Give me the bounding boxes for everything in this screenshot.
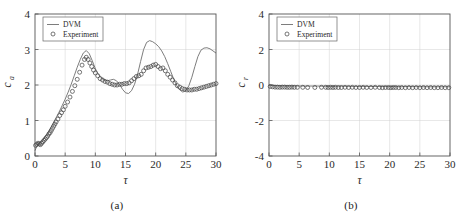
y-tick-label: 2 [25, 79, 31, 91]
x-tick-label: 20 [384, 158, 396, 170]
y-tick-label: 0 [25, 150, 31, 162]
chart-panel-b: 051015202530-4-2024τcrDVMExperiment(b) [234, 0, 468, 215]
legend-label-experiment: Experiment [63, 30, 99, 39]
y-axis-label-subscript: r [241, 77, 250, 80]
y-tick-label: 0 [259, 79, 265, 91]
y-axis-label: ca [1, 76, 16, 88]
figure-container: 05101520253001234τcaDVMExperiment(a)0510… [0, 0, 468, 215]
legend: DVMExperiment [43, 17, 103, 41]
x-tick-label: 30 [211, 158, 223, 170]
x-tick-label: 25 [180, 158, 192, 170]
x-tick-label: 20 [150, 158, 162, 170]
x-tick-label: 10 [90, 158, 102, 170]
y-axis-label-base: c [1, 82, 13, 87]
plot-svg: 05101520253001234τcaDVMExperiment [0, 0, 234, 215]
x-tick-label: 15 [120, 158, 132, 170]
y-tick-label: 1 [25, 115, 31, 127]
panel-caption: (a) [0, 199, 234, 211]
y-tick-label: 2 [259, 44, 265, 56]
x-tick-label: 5 [62, 158, 68, 170]
x-tick-label: 30 [445, 158, 457, 170]
x-tick-label: 5 [296, 158, 302, 170]
legend-label-experiment: Experiment [297, 30, 333, 39]
panel-caption: (b) [234, 199, 468, 211]
y-axis-label-subscript: a [7, 76, 16, 80]
legend-label-dvm: DVM [63, 20, 81, 29]
x-tick-label: 10 [324, 158, 336, 170]
x-axis-label: τ [357, 174, 362, 186]
plot-svg: 051015202530-4-2024τcrDVMExperiment [234, 0, 468, 215]
y-tick-label: 4 [25, 8, 31, 20]
legend-label-dvm: DVM [297, 20, 315, 29]
x-tick-label: 0 [266, 158, 272, 170]
y-tick-label: 3 [25, 44, 31, 56]
chart-panel-a: 05101520253001234τcaDVMExperiment(a) [0, 0, 234, 215]
x-axis-label: τ [123, 174, 128, 186]
y-tick-label: 4 [259, 8, 265, 20]
y-axis-label-base: c [235, 82, 247, 87]
y-tick-label: -2 [255, 115, 264, 127]
x-tick-label: 25 [414, 158, 426, 170]
y-tick-label: -4 [255, 150, 265, 162]
y-axis-label: cr [235, 77, 250, 88]
x-tick-label: 0 [32, 158, 38, 170]
legend: DVMExperiment [277, 17, 337, 41]
x-tick-label: 15 [354, 158, 366, 170]
